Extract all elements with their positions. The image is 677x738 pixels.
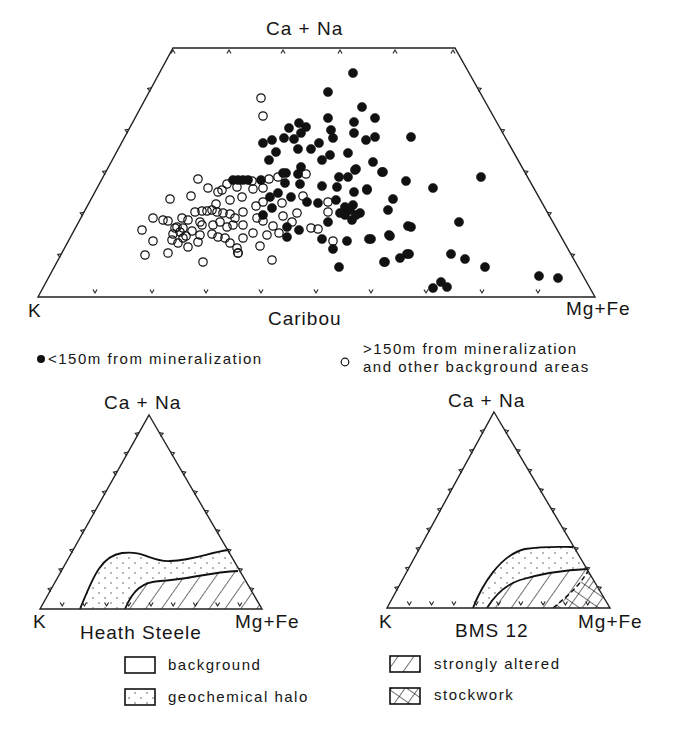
caribou-ternary-plot (38, 48, 595, 297)
filled-data-point (480, 262, 489, 271)
filled-data-point (323, 87, 332, 96)
filled-data-point (357, 102, 366, 111)
filled-data-point (348, 68, 357, 77)
open-data-point (204, 184, 212, 192)
filled-data-point (370, 132, 379, 141)
caribou-ticks (58, 50, 575, 293)
open-data-point (324, 198, 332, 206)
legend-filled-label: <150m from mineralization (48, 350, 263, 367)
open-data-point (293, 209, 301, 217)
caribou-scatter-points (138, 68, 563, 292)
filled-data-point (388, 194, 397, 203)
filled-data-point (534, 271, 543, 280)
filled-data-point (286, 192, 295, 201)
open-data-point (187, 192, 195, 200)
filled-data-point (401, 176, 410, 185)
filled-data-point (279, 133, 288, 142)
open-data-point (239, 221, 247, 229)
filled-data-point (317, 181, 326, 190)
filled-data-point (404, 249, 413, 258)
filled-data-point (313, 198, 322, 207)
open-data-point (269, 222, 277, 230)
open-data-point (249, 185, 257, 193)
filled-data-point (351, 210, 360, 219)
open-data-point (288, 218, 296, 226)
caribou-title: Caribou (268, 308, 342, 330)
filled-data-point (343, 148, 352, 157)
open-data-point (249, 229, 257, 237)
open-data-point (265, 175, 273, 183)
filled-data-point (325, 150, 334, 159)
open-data-point (208, 206, 216, 214)
filled-data-point (328, 133, 337, 142)
open-data-point (257, 94, 265, 102)
open-data-point (141, 251, 149, 259)
filled-data-point (442, 282, 451, 291)
open-data-point (166, 195, 174, 203)
filled-data-point (406, 222, 415, 231)
filled-data-point (349, 117, 358, 126)
open-data-point (164, 217, 172, 225)
heath-steele-left-label: K (33, 611, 47, 633)
caribou-left-label: K (28, 300, 42, 322)
open-data-point (279, 212, 287, 220)
filled-data-point (428, 283, 437, 292)
legend-background-label: background (168, 656, 261, 673)
caribou-right-label: Mg+Fe (566, 298, 631, 320)
open-data-point (226, 239, 234, 247)
filled-data-point (406, 132, 415, 141)
filled-data-point (368, 157, 377, 166)
legend-halo-swatch (125, 689, 155, 705)
caribou-frame (38, 48, 595, 297)
open-data-point (259, 198, 267, 206)
filled-data-point (331, 195, 340, 204)
open-data-point (234, 249, 242, 257)
filled-data-point (314, 138, 323, 147)
legend-stockwork-label: stockwork (434, 686, 514, 703)
filled-data-point (349, 128, 358, 137)
heath-steele-title: Heath Steele (80, 622, 202, 644)
bms12-apex-label: Ca + Na (448, 390, 525, 412)
filled-data-point (282, 222, 291, 231)
filled-data-point (264, 155, 273, 164)
filled-data-point (460, 254, 469, 263)
filled-data-point (293, 144, 302, 153)
open-data-point (275, 229, 283, 237)
filled-data-point (271, 147, 280, 156)
heath-steele-ternary-plot (40, 415, 262, 609)
filled-data-point (334, 262, 343, 271)
open-data-point (259, 112, 267, 120)
filled-data-point (370, 113, 379, 122)
filled-data-point (256, 175, 265, 184)
filled-data-point (334, 172, 343, 181)
filled-data-point (350, 165, 359, 174)
filled-data-point (295, 179, 304, 188)
filled-data-point (383, 205, 392, 214)
filled-data-point (258, 138, 267, 147)
open-data-point (324, 208, 332, 216)
open-data-point (302, 170, 310, 178)
filled-data-point (294, 225, 303, 234)
filled-data-point (335, 208, 344, 217)
open-data-point (268, 256, 276, 264)
legend-altered-label: strongly altered (434, 655, 561, 672)
filled-data-point (446, 249, 455, 258)
filled-data-point (385, 231, 394, 240)
open-data-point (239, 208, 247, 216)
legend-open-circle-icon (341, 358, 349, 366)
open-data-point (149, 237, 157, 245)
legend-open-label-line2: and other background areas (363, 358, 590, 375)
filled-data-point (326, 125, 335, 134)
filled-data-point (343, 172, 352, 181)
open-data-point (278, 199, 286, 207)
filled-data-point (379, 257, 388, 266)
filled-data-point (428, 183, 437, 192)
open-data-point (164, 249, 172, 257)
filled-data-point (302, 197, 311, 206)
filled-data-point (323, 113, 332, 122)
open-data-point (184, 243, 192, 251)
bms12-ternary-plot (387, 412, 610, 608)
heath-steele-right-label: Mg+Fe (235, 611, 300, 633)
filled-data-point (362, 185, 371, 194)
open-data-point (256, 242, 264, 250)
